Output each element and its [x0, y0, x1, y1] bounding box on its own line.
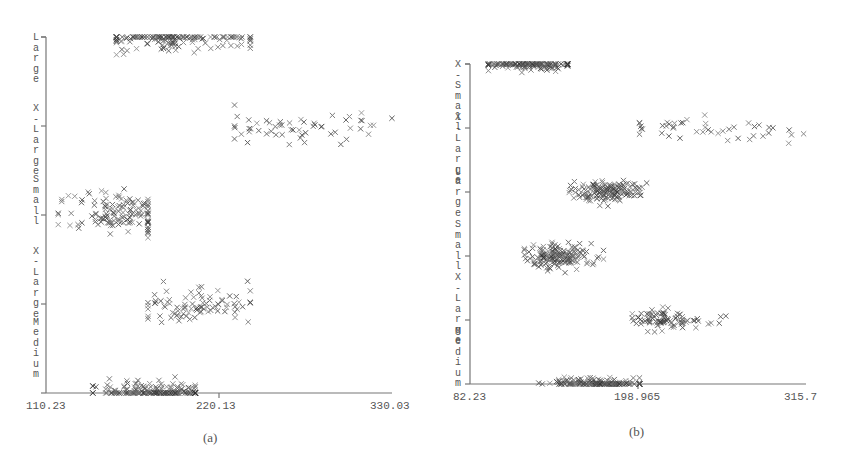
data-point-x-marker: [700, 129, 705, 134]
data-point-x-marker: [746, 120, 751, 125]
data-point-x-marker: [644, 180, 649, 185]
data-point-x-marker: [601, 248, 606, 253]
data-point-x-marker: [736, 136, 741, 141]
caption-b: (b): [629, 424, 644, 440]
data-point-x-marker: [596, 254, 601, 259]
data-point-x-marker: [726, 127, 731, 132]
data-point-x-marker: [571, 195, 576, 200]
data-point-x-marker: [665, 306, 670, 311]
data-point-x-marker: [562, 270, 567, 275]
data-point-x-marker: [637, 375, 642, 380]
data-point-x-marker: [709, 129, 714, 134]
data-point-x-marker: [601, 257, 606, 262]
data-point-x-marker: [526, 249, 531, 254]
data-point-x-marker: [664, 123, 669, 128]
data-point-x-marker: [702, 112, 707, 117]
x-tick-right-b: 315.7: [784, 391, 817, 403]
x-tick-mid-b: 198.965: [614, 391, 660, 403]
data-point-x-marker: [621, 178, 626, 183]
data-point-x-marker: [547, 381, 552, 386]
data-point-x-marker: [630, 311, 635, 316]
y-category-label: L a r g e: [453, 167, 463, 220]
data-point-x-marker: [752, 124, 757, 129]
data-point-x-marker: [801, 131, 806, 136]
data-point-x-marker: [694, 129, 699, 134]
data-point-x-marker: [568, 183, 573, 188]
data-point-x-marker: [527, 256, 532, 261]
data-point-x-marker: [718, 314, 723, 319]
data-point-x-marker: [597, 203, 602, 208]
data-point-x-marker: [747, 137, 752, 142]
data-point-x-marker: [574, 267, 579, 272]
data-point-x-marker: [720, 128, 725, 133]
scatter-plot-b: [0, 0, 843, 472]
data-point-x-marker: [703, 121, 708, 126]
data-point-x-marker: [659, 328, 664, 333]
data-point-x-marker: [789, 132, 794, 137]
data-point-x-marker: [766, 130, 771, 135]
data-point-x-marker: [680, 325, 685, 330]
data-point-x-marker: [638, 317, 643, 322]
data-point-x-marker: [637, 132, 642, 137]
data-point-x-marker: [605, 204, 610, 209]
data-point-x-marker: [786, 141, 791, 146]
y-category-label: S m a l l: [453, 220, 463, 273]
data-point-x-marker: [717, 321, 722, 326]
data-point-x-marker: [684, 117, 689, 122]
scatter-panel-b: X - S m a l lX - L a r g eL a r g eS m a…: [0, 0, 843, 472]
data-point-x-marker: [519, 70, 524, 75]
data-point-x-marker: [652, 329, 657, 334]
data-point-x-marker: [787, 127, 792, 132]
data-point-x-marker: [486, 68, 491, 73]
data-point-x-marker: [566, 240, 571, 245]
data-point-x-marker: [660, 304, 665, 309]
data-point-x-marker: [645, 329, 650, 334]
data-point-x-marker: [756, 122, 761, 127]
data-point-x-marker: [589, 241, 594, 246]
data-point-x-marker: [677, 136, 682, 141]
data-point-x-marker: [770, 125, 775, 130]
y-category-label: M e d i u m: [453, 327, 463, 390]
data-point-x-marker: [577, 241, 582, 246]
data-point-x-marker: [659, 131, 664, 136]
data-point-x-marker: [723, 313, 728, 318]
x-tick-left-b: 82.23: [453, 391, 486, 403]
data-point-x-marker: [725, 138, 730, 143]
data-point-x-marker: [693, 325, 698, 330]
data-point-x-marker: [536, 380, 541, 385]
data-point-x-marker: [715, 131, 720, 136]
data-point-x-marker: [731, 125, 736, 130]
data-point-x-marker: [666, 134, 671, 139]
data-point-x-marker: [760, 134, 765, 139]
data-point-x-marker: [706, 127, 711, 132]
